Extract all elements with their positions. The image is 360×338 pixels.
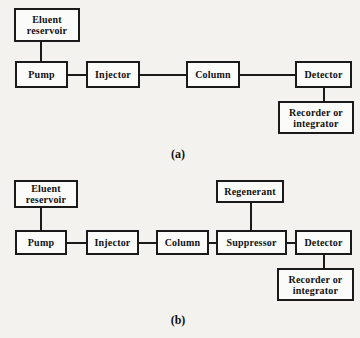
box-label: Detector — [302, 69, 344, 80]
connector-pump-to-injector-b — [66, 242, 87, 244]
box-column-b[interactable]: Column — [156, 230, 209, 255]
box-suppressor-b[interactable]: Suppressor — [216, 230, 287, 255]
box-detector-b[interactable]: Detector — [295, 230, 352, 255]
connector-column-to-detector-a — [238, 74, 297, 76]
box-recorder-integrator-b[interactable]: Recorder or integrator — [277, 268, 354, 301]
box-regenerant-b[interactable]: Regenerant — [216, 180, 284, 203]
box-label: Column — [193, 69, 233, 80]
box-recorder-integrator-a[interactable]: Recorder or integrator — [278, 101, 354, 134]
box-label: Eluent reservoir — [25, 14, 69, 36]
box-label: Injector — [93, 69, 133, 80]
connector-injector-to-column-a — [138, 74, 188, 76]
box-label: Detector — [302, 237, 344, 248]
box-label: Recorder or integrator — [287, 107, 345, 129]
connector-pump-to-injector-a — [66, 74, 88, 76]
flow-diagram-figure: Eluent reservoir Pump Injector Column De… — [0, 0, 360, 338]
box-label: Pump — [26, 69, 56, 80]
connector-injector-to-column-b — [138, 242, 157, 244]
connector-detector-to-recorder-b — [323, 254, 325, 269]
box-label: Regenerant — [222, 186, 277, 197]
box-eluent-reservoir-b[interactable]: Eluent reservoir — [14, 180, 78, 208]
box-label: Eluent reservoir — [24, 183, 68, 205]
connector-regenerant-to-suppressor-b — [250, 202, 252, 232]
box-pump-b[interactable]: Pump — [15, 230, 67, 255]
box-detector-a[interactable]: Detector — [295, 61, 352, 88]
box-label: Pump — [26, 237, 56, 248]
box-column-a[interactable]: Column — [186, 61, 240, 88]
panel-caption-b: (b) — [148, 313, 208, 328]
box-label: Recorder or integrator — [287, 274, 345, 296]
box-injector-a[interactable]: Injector — [86, 61, 140, 88]
box-label: Injector — [92, 237, 132, 248]
box-label: Suppressor — [224, 237, 278, 248]
connector-eluent-to-pump-a — [40, 41, 42, 63]
panel-caption-a: (a) — [148, 147, 208, 162]
connector-detector-to-recorder-a — [323, 87, 325, 102]
connector-eluent-to-pump-b — [40, 207, 42, 231]
box-label: Column — [163, 237, 203, 248]
box-pump-a[interactable]: Pump — [15, 61, 68, 88]
box-injector-b[interactable]: Injector — [86, 230, 139, 255]
box-eluent-reservoir-a[interactable]: Eluent reservoir — [14, 8, 80, 42]
